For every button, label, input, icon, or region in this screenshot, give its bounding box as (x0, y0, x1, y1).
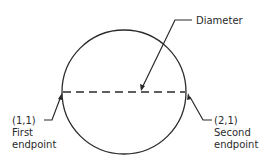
first-endpoint-leader-line (44, 96, 61, 120)
diameter-arrowhead-icon (140, 84, 145, 91)
first-endpoint-arrowhead-icon (58, 93, 62, 100)
diameter-circle-diagram: Diameter (1,1) First endpoint (2,1) Seco… (0, 0, 279, 165)
first-endpoint-label-line2: endpoint (12, 139, 56, 150)
second-endpoint-coord: (2,1) (214, 115, 238, 126)
second-endpoint-label-line1: Second (214, 127, 251, 138)
second-endpoint-arrowhead-icon (187, 93, 191, 100)
second-endpoint-leader-line (190, 97, 212, 120)
second-endpoint-label-line2: endpoint (214, 139, 258, 150)
first-endpoint-label-line1: First (12, 127, 33, 138)
first-endpoint-coord: (1,1) (12, 115, 36, 126)
diameter-label: Diameter (196, 15, 244, 26)
